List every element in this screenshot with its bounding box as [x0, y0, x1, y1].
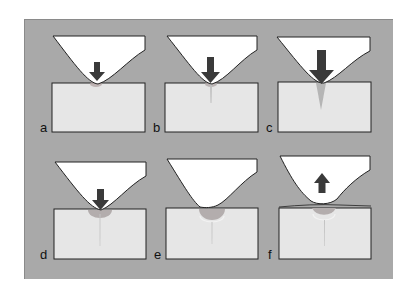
panel-label: b [153, 120, 160, 135]
panel-d: d [40, 162, 146, 262]
panel-f: f [268, 156, 371, 262]
panel-label: e [154, 247, 161, 262]
substrate [52, 83, 145, 132]
panel-b: b [153, 36, 258, 135]
substrate [279, 208, 371, 259]
indenter [167, 159, 257, 208]
panel-label: f [268, 247, 272, 262]
indentation-diagram: a b c d e [0, 0, 412, 294]
panel-a: a [40, 36, 145, 135]
panel-c: c [266, 37, 371, 135]
panel-e: e [154, 159, 258, 262]
surface-line [279, 205, 371, 207]
panel-label: c [266, 120, 273, 135]
panel-label: d [40, 247, 47, 262]
panel-label: a [40, 120, 48, 135]
